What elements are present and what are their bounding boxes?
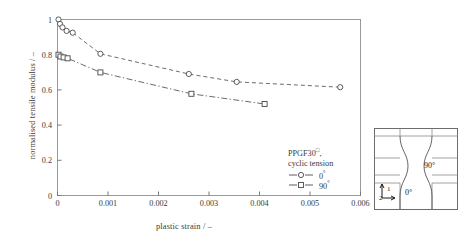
specimen-inset-svg — [374, 128, 458, 210]
inset-axis-label-1: 1 — [387, 185, 391, 193]
legend-label-0deg: 0° — [314, 170, 326, 181]
specimen-inset: 90° 0° 1 2 — [374, 128, 458, 210]
y-tick-label: 0.2 — [22, 156, 52, 165]
chart-area: 1 0.8 0.6 0.4 0.2 0 0 0.001 0.002 0.003 … — [0, 0, 368, 243]
y-tick-label: 0.8 — [22, 51, 52, 60]
y-axis-title: normalised tensile modulus / – — [28, 11, 37, 201]
legend-title-line2: cyclic tension — [288, 159, 364, 170]
legend: PPGF30□, cyclic tension 0° 90° — [288, 145, 364, 191]
y-tick-label: 0.6 — [22, 86, 52, 95]
x-tick-label: 0.004 — [240, 199, 280, 208]
legend-label-90deg: 90° — [314, 180, 330, 191]
legend-title-line1: PPGF30□, — [288, 145, 364, 159]
legend-key-90deg — [288, 180, 314, 190]
inset-label-0deg: 0° — [405, 188, 412, 197]
x-tick-label: 0.005 — [290, 199, 330, 208]
x-axis-title: plastic strain / – — [0, 222, 368, 231]
legend-key-0deg — [288, 170, 314, 180]
legend-label-90deg-unit: ° — [327, 180, 329, 186]
x-tick-label: 0.002 — [139, 199, 179, 208]
x-tick-label: 0.003 — [189, 199, 229, 208]
legend-entry-0deg[interactable]: 0° — [288, 170, 364, 181]
x-tick-label: 0 — [38, 199, 78, 208]
legend-label-0deg-unit: ° — [323, 170, 325, 176]
legend-title-comma: , — [319, 149, 321, 158]
y-tick-label: 0.4 — [22, 121, 52, 130]
x-tick-label: 0.001 — [88, 199, 128, 208]
inset-frame — [375, 129, 458, 210]
legend-entry-90deg[interactable]: 90° — [288, 180, 364, 191]
inset-axis-label-2: 2 — [379, 194, 383, 202]
figure-root: 1 0.8 0.6 0.4 0.2 0 0 0.001 0.002 0.003 … — [0, 0, 464, 243]
inset-label-90deg: 90° — [424, 161, 435, 170]
y-tick-label: 1 — [22, 16, 52, 25]
legend-label-90deg-value: 90 — [319, 182, 327, 191]
legend-material-label: PPGF30 — [288, 149, 316, 158]
